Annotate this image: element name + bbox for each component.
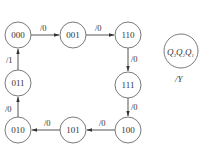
svg-text:101: 101 [66, 125, 80, 135]
state-101: 101 [60, 117, 86, 143]
svg-text:001: 001 [66, 30, 80, 40]
svg-text:010: 010 [11, 125, 25, 135]
edge-label-110-111: /0 [131, 54, 138, 64]
svg-text:011: 011 [11, 78, 24, 88]
state-001: 001 [60, 22, 86, 48]
svg-text:110: 110 [121, 30, 135, 40]
edge-label-101-010: /0 [44, 118, 51, 128]
state-diagram: /0 /0 /0 /0 /0 /0 /0 /1 000 001 110 111 … [0, 0, 217, 152]
edge-label-100-101: /0 [99, 118, 106, 128]
edge-label-011-000: /1 [6, 55, 13, 65]
state-011: 011 [5, 70, 31, 96]
state-110: 110 [115, 22, 141, 48]
legend-state-label: Q3Q2Q1 [167, 47, 194, 58]
edge-label-000-001: /0 [40, 23, 47, 33]
state-111: 111 [115, 72, 141, 98]
state-000: 000 [5, 22, 31, 48]
state-100: 100 [115, 117, 141, 143]
edge-label-010-011: /0 [5, 104, 12, 114]
svg-text:000: 000 [11, 30, 25, 40]
edge-label-111-100: /0 [131, 102, 138, 112]
edge-label-001-110: /0 [95, 23, 102, 33]
legend: Q3Q2Q1 /Y [164, 34, 198, 84]
legend-output-label: /Y [174, 74, 184, 84]
svg-text:111: 111 [122, 80, 135, 90]
svg-text:100: 100 [121, 125, 135, 135]
state-010: 010 [5, 117, 31, 143]
